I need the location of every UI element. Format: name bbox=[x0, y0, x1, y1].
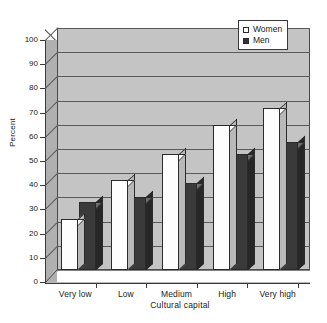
y-tick-mark bbox=[40, 137, 45, 138]
bar-front-face bbox=[263, 108, 280, 270]
gridline bbox=[57, 101, 310, 102]
legend-label-women: Women bbox=[253, 25, 282, 34]
chart-legend: Women Men bbox=[238, 20, 288, 50]
bar-side-face bbox=[248, 148, 255, 270]
bar-side-face bbox=[280, 102, 287, 270]
plot-floor bbox=[45, 270, 310, 283]
y-tick-mark bbox=[40, 113, 45, 114]
y-tick-label: 0 bbox=[12, 278, 38, 286]
bar-chart: Percent 0102030405060708090100 Very lowL… bbox=[0, 0, 327, 323]
y-tick-label: 90 bbox=[12, 60, 38, 68]
bar-side-face bbox=[179, 148, 186, 270]
legend-label-men: Men bbox=[253, 36, 270, 45]
bar-women-low bbox=[111, 180, 128, 270]
bar-women-medium bbox=[162, 154, 179, 270]
y-tick-mark bbox=[40, 209, 45, 210]
x-tick-mark bbox=[197, 283, 198, 288]
y-tick-mark bbox=[40, 185, 45, 186]
y-tick-label: 70 bbox=[12, 109, 38, 117]
x-axis-line bbox=[45, 283, 310, 284]
y-tick-mark bbox=[40, 282, 45, 283]
bar-women-very-high bbox=[263, 108, 280, 270]
bar-front-face bbox=[111, 180, 128, 270]
y-tick-label: 80 bbox=[12, 84, 38, 92]
bar-women-very-low bbox=[61, 219, 78, 270]
bar-women-high bbox=[213, 125, 230, 270]
x-tick-mark bbox=[247, 283, 248, 288]
legend-item-women: Women bbox=[243, 24, 282, 35]
y-tick-label: 10 bbox=[12, 254, 38, 262]
y-tick-mark bbox=[40, 258, 45, 259]
x-tick-mark bbox=[298, 283, 299, 288]
y-tick-mark bbox=[40, 88, 45, 89]
x-axis-title: Cultural capital bbox=[60, 300, 300, 310]
bar-side-face bbox=[197, 177, 204, 270]
x-tick-mark bbox=[96, 283, 97, 288]
y-tick-mark bbox=[40, 161, 45, 162]
gridline bbox=[57, 52, 310, 53]
y-tick-mark bbox=[40, 64, 45, 65]
y-tick-mark bbox=[40, 40, 45, 41]
bar-side-face bbox=[146, 191, 153, 270]
y-tick-label: 40 bbox=[12, 181, 38, 189]
bar-side-face bbox=[230, 118, 237, 269]
y-tick-label: 20 bbox=[12, 230, 38, 238]
bar-front-face bbox=[213, 125, 230, 270]
bar-front-face bbox=[61, 219, 78, 270]
y-tick-label: 30 bbox=[12, 205, 38, 213]
bar-side-face bbox=[128, 174, 135, 270]
legend-swatch-women-icon bbox=[243, 27, 249, 33]
legend-item-men: Men bbox=[243, 35, 282, 46]
bar-front-face bbox=[162, 154, 179, 270]
x-tick-mark bbox=[146, 283, 147, 288]
x-tick-label-very-high: Very high bbox=[243, 289, 313, 299]
y-tick-label: 50 bbox=[12, 157, 38, 165]
gridline bbox=[57, 76, 310, 77]
legend-swatch-men-icon bbox=[243, 38, 249, 44]
y-tick-label: 60 bbox=[12, 133, 38, 141]
bar-side-face bbox=[298, 135, 305, 270]
y-tick-label: 100 bbox=[12, 36, 38, 44]
y-tick-mark bbox=[40, 234, 45, 235]
